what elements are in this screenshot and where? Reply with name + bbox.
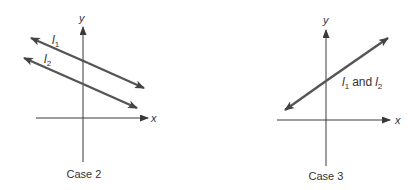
panel-case-2: y x l1 l2 Case 2 — [24, 12, 157, 180]
line-l1-and-l2 — [285, 81, 326, 110]
diagram-canvas: y x l1 l2 Case 2 y x l1andl2 Case 3 — [0, 0, 420, 190]
caption-case-3: Case 3 — [309, 170, 344, 182]
line-l2 — [83, 84, 137, 108]
caption-case-2: Case 2 — [67, 168, 102, 180]
label-l2: l2 — [44, 52, 52, 68]
y-axis-label: y — [322, 14, 330, 26]
label-l1: l1 — [52, 33, 60, 49]
line-l1 — [31, 38, 88, 63]
line-l2 — [24, 58, 83, 84]
line-l1 — [88, 63, 144, 88]
x-axis-label: x — [394, 114, 401, 126]
panel-case-3: y x l1andl2 Case 3 — [277, 14, 401, 182]
label-l1-and-l2: l1andl2 — [342, 75, 383, 91]
x-axis-label: x — [150, 112, 157, 124]
y-axis-label: y — [78, 12, 86, 24]
